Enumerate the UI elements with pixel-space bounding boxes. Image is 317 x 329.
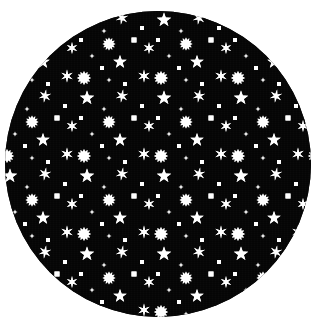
star-field [5, 11, 311, 317]
image-canvas: Starry night circular swatch A black cir… [0, 0, 317, 329]
star-field-fill [5, 11, 311, 317]
starry-circle-swatch [5, 11, 311, 317]
